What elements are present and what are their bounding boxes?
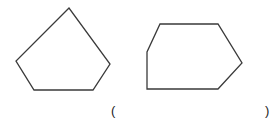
hexagon-shape bbox=[147, 24, 242, 89]
answer-open-paren: ( bbox=[111, 104, 115, 117]
answer-close-paren: ) bbox=[265, 104, 269, 117]
answer-blank[interactable] bbox=[122, 102, 262, 118]
pentagon-shape bbox=[16, 8, 110, 90]
